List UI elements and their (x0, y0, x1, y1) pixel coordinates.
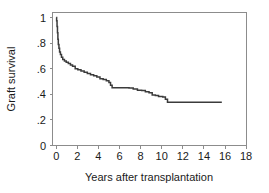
x-tick-label-8: 16 (219, 150, 231, 162)
kaplan-meier-figure: 0 .2 .4 .6 .8 1 0 2 4 6 (0, 0, 269, 193)
y-tick-label-1: .2 (37, 114, 46, 126)
x-tick-label-7: 14 (198, 150, 210, 162)
y-tick-label-4: .8 (37, 37, 46, 49)
x-tick-label-2: 4 (95, 150, 101, 162)
survival-curve (56, 18, 222, 103)
y-tick-label-5: 1 (40, 12, 46, 24)
y-tick-label-2: .4 (37, 88, 46, 100)
plot-frame (53, 13, 247, 146)
x-tick-label-1: 2 (74, 150, 80, 162)
x-axis: 0 2 4 6 8 10 12 14 16 18 (53, 146, 252, 163)
y-tick-label-0: 0 (40, 140, 46, 152)
y-tick-label-3: .6 (37, 63, 46, 75)
chart-canvas: 0 .2 .4 .6 .8 1 0 2 4 6 (0, 0, 269, 193)
x-tick-label-5: 10 (156, 150, 168, 162)
x-tick-label-3: 6 (116, 150, 122, 162)
x-axis-title: Years after transplantation (85, 171, 213, 183)
y-axis-title: Graft survival (5, 47, 17, 112)
x-tick-label-0: 0 (53, 150, 59, 162)
x-tick-label-9: 18 (240, 150, 252, 162)
x-tick-label-6: 12 (177, 150, 189, 162)
y-axis: 0 .2 .4 .6 .8 1 (37, 12, 53, 152)
x-tick-label-4: 8 (138, 150, 144, 162)
